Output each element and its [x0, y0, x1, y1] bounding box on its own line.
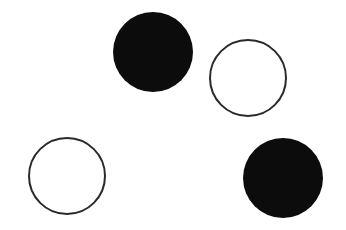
filled-circle-top	[113, 12, 193, 92]
filled-circle-bottom-right	[243, 138, 323, 218]
circles-diagram	[0, 0, 346, 230]
outline-circle-top-right	[210, 40, 286, 116]
outline-circle-bottom-left	[29, 138, 105, 214]
